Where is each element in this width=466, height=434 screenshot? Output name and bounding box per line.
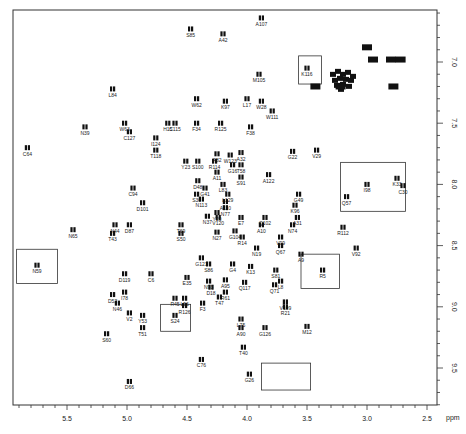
peak-label: A95 bbox=[221, 283, 230, 289]
peak-s81: S81 bbox=[271, 268, 280, 280]
peak-g49: G49 bbox=[294, 192, 304, 204]
peak-t69: T69 bbox=[177, 222, 186, 234]
peak-k116: K116 bbox=[301, 66, 313, 78]
peak-label: R5 bbox=[319, 273, 326, 279]
peak-label: C94 bbox=[128, 191, 137, 197]
peak-g4: G4 bbox=[229, 261, 236, 273]
peak-marker bbox=[337, 76, 343, 81]
peak-r45: R45 bbox=[170, 296, 179, 308]
peak-marker bbox=[386, 57, 396, 63]
peak-label: T69 bbox=[177, 228, 186, 234]
highlight-box bbox=[299, 56, 322, 84]
peak-i98: I98 bbox=[364, 182, 371, 194]
peak-n37: N37 bbox=[203, 214, 212, 226]
peak-l83: L83 bbox=[219, 182, 228, 194]
peak-label: M12 bbox=[302, 329, 312, 335]
peak-label: A42 bbox=[219, 37, 228, 43]
peak-label: T40 bbox=[239, 350, 248, 356]
peak-i78: I78 bbox=[121, 290, 128, 302]
peak-label: R14 bbox=[238, 240, 247, 246]
peak-d48: D48 bbox=[193, 178, 202, 190]
peak-m105: M105 bbox=[253, 72, 266, 84]
peak-label: W111 bbox=[266, 114, 279, 120]
peak-label: A110 bbox=[220, 205, 232, 211]
peak-q117: Q117 bbox=[239, 280, 251, 292]
peak-label: D66 bbox=[125, 384, 134, 390]
peak-r112: R112 bbox=[337, 225, 349, 237]
peak-n19: N19 bbox=[252, 246, 261, 258]
peak-a107: A107 bbox=[256, 15, 268, 27]
peak-f3: F3 bbox=[200, 301, 206, 313]
peak-label: G49 bbox=[294, 197, 304, 203]
peak-i124: I124 bbox=[151, 135, 161, 147]
peak-n59: N59 bbox=[32, 263, 41, 275]
peak-label: V29 bbox=[312, 153, 321, 159]
peak-n39: N39 bbox=[80, 124, 89, 135]
peak-label: F3 bbox=[200, 306, 206, 312]
peak-a122: A122 bbox=[263, 172, 275, 184]
y-tick-label: 7.0 bbox=[451, 57, 458, 67]
peak-marker bbox=[388, 83, 398, 89]
peak-w28: W28 bbox=[256, 99, 267, 111]
peak-label: I124 bbox=[151, 141, 161, 147]
peak-label: N27 bbox=[212, 235, 221, 241]
peak-v29: V29 bbox=[312, 148, 321, 160]
peak-label: D48 bbox=[193, 184, 202, 190]
peak-label: D18 bbox=[206, 290, 215, 296]
peak-a95: A95 bbox=[221, 277, 230, 289]
peak-r5: R5 bbox=[319, 268, 326, 280]
peak-label: A9 bbox=[298, 257, 304, 263]
peak-label: N113 bbox=[196, 202, 208, 208]
peak-w123: W123 bbox=[224, 153, 237, 165]
x-tick-label: 3.5 bbox=[302, 415, 312, 422]
peak-c6: C6 bbox=[148, 271, 155, 283]
peak-marker bbox=[396, 57, 406, 63]
peak-label: E35 bbox=[183, 280, 192, 286]
peak-g26: G26 bbox=[245, 372, 255, 384]
peak-label: R21 bbox=[281, 310, 290, 316]
peak-label: D119 bbox=[119, 277, 131, 283]
peak-label: Q67 bbox=[276, 249, 286, 255]
peak-marker bbox=[362, 44, 372, 50]
y-tick-label: 9.0 bbox=[451, 302, 458, 312]
peak-label: Y23 bbox=[181, 164, 190, 170]
peak-label: Q71 bbox=[270, 288, 280, 294]
peak-l75: L75 bbox=[237, 317, 246, 329]
peak-y23: Y23 bbox=[181, 159, 190, 171]
peak-g126: G126 bbox=[259, 325, 271, 337]
y-tick-label: 8.5 bbox=[451, 241, 458, 251]
peak-label: K96 bbox=[291, 208, 300, 214]
peak-d101: D101 bbox=[137, 200, 149, 212]
peak-label: F34 bbox=[192, 126, 201, 132]
peak-e35: E35 bbox=[183, 275, 192, 287]
peak-f34: F34 bbox=[192, 121, 201, 133]
peak-s100: S100 bbox=[192, 159, 204, 171]
peak-c64: C64 bbox=[23, 145, 32, 157]
peak-v92: V92 bbox=[352, 246, 361, 258]
peak-label: L75 bbox=[237, 322, 246, 328]
peak-label: W28 bbox=[256, 104, 267, 110]
peak-w62: W62 bbox=[191, 96, 202, 108]
x-tick-label: 3.0 bbox=[362, 415, 372, 422]
peak-label: S60 bbox=[102, 337, 111, 343]
peak-label: T47 bbox=[215, 300, 224, 306]
peak-label: A32 bbox=[237, 156, 246, 162]
peak-label: Y53 bbox=[138, 318, 147, 324]
peak-label: L17 bbox=[243, 102, 252, 108]
peak-marker bbox=[310, 83, 320, 89]
peak-label: T118 bbox=[150, 153, 161, 159]
peak-a9: A9 bbox=[298, 252, 304, 264]
y-tick-label: 9.5 bbox=[451, 363, 458, 373]
peak-y53: Y53 bbox=[138, 313, 147, 325]
peak-label: K116 bbox=[301, 71, 313, 77]
peak-label: N39 bbox=[80, 130, 89, 136]
x-axis: 5.55.04.54.03.53.02.5 bbox=[19, 405, 432, 422]
y-tick-label: 7.5 bbox=[451, 118, 458, 128]
peak-label: G104 bbox=[229, 234, 241, 240]
peak-label: N59 bbox=[32, 268, 41, 274]
peak-label: S86 bbox=[204, 267, 213, 273]
peak-f38: F38 bbox=[246, 124, 255, 135]
peak-s91: S91 bbox=[237, 175, 246, 187]
peak-label: R126 bbox=[179, 309, 191, 315]
peak-t58: T58 bbox=[237, 162, 246, 174]
